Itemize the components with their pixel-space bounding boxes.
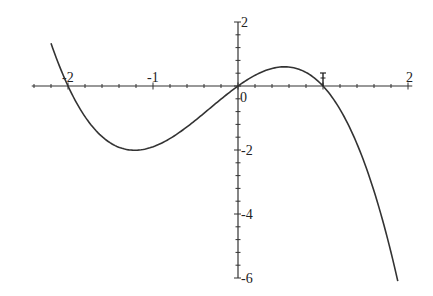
y-axis	[234, 22, 241, 278]
function-curve	[51, 43, 398, 281]
x-tick-label: -1	[147, 70, 159, 85]
y-tick-label: -2	[241, 143, 253, 158]
function-plot: -2-1022-2-4-6	[0, 0, 433, 296]
y-tick-label: -4	[241, 207, 253, 222]
x-axis	[32, 83, 413, 90]
y-tick-label: 2	[241, 15, 248, 30]
x-tick-label: 2	[406, 70, 413, 85]
x-tick-label: 0	[240, 90, 247, 105]
y-tick-label: -6	[241, 271, 253, 286]
